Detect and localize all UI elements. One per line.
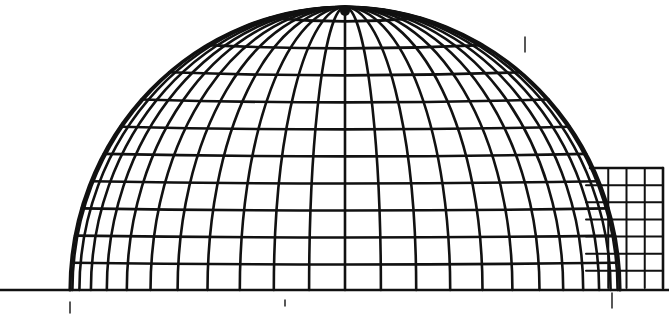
dome-apex [340, 6, 350, 16]
dome-drawing-svg [0, 0, 669, 315]
annex-grid [586, 168, 663, 288]
dome-sketch [0, 0, 669, 315]
